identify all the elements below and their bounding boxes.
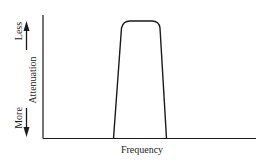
up-arrow-icon	[24, 21, 30, 50]
passband-curve	[114, 21, 167, 139]
x-axis-label: Frequency	[121, 144, 163, 155]
down-arrow-icon	[24, 108, 30, 137]
bandpass-diagram: Frequency Attenuation Less More	[0, 0, 261, 162]
y-axis-label: Attenuation	[27, 56, 38, 103]
more-label: More	[13, 107, 24, 129]
less-label: Less	[13, 22, 24, 40]
